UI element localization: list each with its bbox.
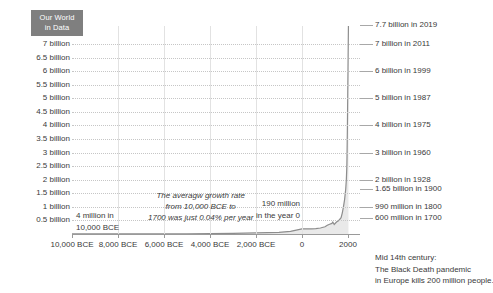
y-axis-tick-label: 6.5 billion bbox=[8, 53, 70, 62]
annotation-line: 4 million in bbox=[76, 210, 119, 222]
gridline-horizontal bbox=[72, 166, 360, 167]
x-axis-tick bbox=[72, 234, 73, 238]
gridline-horizontal bbox=[72, 112, 360, 113]
x-axis-tick bbox=[118, 234, 119, 238]
x-axis-tick-label: 2000 bbox=[339, 240, 357, 249]
y-axis-tick-label: 5.5 billion bbox=[8, 80, 70, 89]
milestone-leader-line bbox=[360, 189, 373, 190]
annotation-growth-rate: The averagw growth ratefrom 10,000 BCE t… bbox=[148, 190, 253, 223]
milestone-label: 2 billion in 1928 bbox=[375, 175, 431, 184]
milestone-leader-line bbox=[360, 153, 373, 154]
milestone-leader-line bbox=[360, 98, 373, 99]
milestone-label: 600 million in 1700 bbox=[375, 213, 442, 222]
y-axis-tick-label: 3.5 billion bbox=[8, 134, 70, 143]
chart-canvas: Our World in Data 7 billion6.5 billion6 … bbox=[0, 0, 493, 293]
x-axis-tick-label: 8,000 BCE bbox=[99, 240, 138, 249]
milestone-label: 7.7 billion in 2019 bbox=[375, 20, 437, 29]
y-axis-tick-label: 2.5 billion bbox=[8, 161, 70, 170]
gridline-horizontal bbox=[72, 85, 360, 86]
y-axis-tick-label: 0.5 billion bbox=[8, 215, 70, 224]
annotation-line: The Black Death pandemic bbox=[375, 264, 493, 276]
milestone-leader-line bbox=[360, 207, 373, 208]
milestone-label: 3 billion in 1960 bbox=[375, 148, 431, 157]
gridline-horizontal bbox=[72, 58, 360, 59]
annotation-line: The averagw growth rate bbox=[148, 190, 253, 201]
milestone-leader-line bbox=[360, 71, 373, 72]
milestone-label: 6 billion in 1999 bbox=[375, 66, 431, 75]
gridline-horizontal bbox=[72, 44, 360, 45]
gridline-horizontal bbox=[72, 180, 360, 181]
logo-line-1: Our World bbox=[31, 13, 83, 23]
annotation-line: in the year 0 bbox=[256, 210, 300, 222]
milestone-leader-line bbox=[360, 25, 373, 26]
annotation-black-death: Mid 14th century:The Black Death pandemi… bbox=[375, 252, 493, 287]
gridline-vertical bbox=[118, 26, 119, 234]
x-axis-line bbox=[72, 234, 360, 235]
milestone-label: 1.65 billion in 1900 bbox=[375, 184, 442, 193]
y-axis-tick-label: 4.5 billion bbox=[8, 107, 70, 116]
annotation-line: 10,000 BCE bbox=[76, 222, 119, 234]
x-axis-tick bbox=[256, 234, 257, 238]
annotation-line: Mid 14th century: bbox=[375, 252, 493, 264]
annotation-4-million: 4 million in10,000 BCE bbox=[76, 210, 119, 233]
y-axis-tick-label: 6 billion bbox=[8, 66, 70, 75]
x-axis-tick-label: 2,000 BCE bbox=[237, 240, 276, 249]
y-axis-labels: 7 billion6.5 billion6 billion5.5 billion… bbox=[8, 26, 70, 234]
annotation-line: in Europe kills 200 million people. bbox=[375, 275, 493, 287]
y-axis-tick-label: 1.5 billion bbox=[8, 188, 70, 197]
x-axis-tick-label: 0 bbox=[300, 240, 304, 249]
x-axis-tick-label: 10,000 BCE bbox=[50, 240, 93, 249]
milestone-leader-line bbox=[360, 125, 373, 126]
milestone-leader-line bbox=[360, 180, 373, 181]
logo-line-2: in Data bbox=[31, 23, 83, 33]
x-axis-tick bbox=[210, 234, 211, 238]
milestone-leader-line bbox=[360, 44, 373, 45]
gridline-horizontal bbox=[72, 153, 360, 154]
x-axis-tick bbox=[348, 234, 349, 238]
x-axis-tick-label: 4,000 BCE bbox=[191, 240, 230, 249]
gridline-horizontal bbox=[72, 125, 360, 126]
milestone-label: 7 billion in 2011 bbox=[375, 39, 430, 48]
gridline-vertical bbox=[302, 26, 303, 234]
y-axis-tick-label: 1 billion bbox=[8, 202, 70, 211]
y-axis-tick-label: 3 billion bbox=[8, 148, 70, 157]
gridline-horizontal bbox=[72, 71, 360, 72]
y-axis-tick-label: 7 billion bbox=[8, 39, 70, 48]
annotation-line: 190 million bbox=[256, 198, 300, 210]
x-axis-tick bbox=[302, 234, 303, 238]
y-axis-tick-label: 2 billion bbox=[8, 175, 70, 184]
annotation-year-zero: 190 millionin the year 0 bbox=[256, 198, 300, 221]
gridline-horizontal bbox=[72, 98, 360, 99]
gridline-horizontal bbox=[72, 139, 360, 140]
x-axis-tick-label: 6,000 BCE bbox=[145, 240, 184, 249]
milestone-leader-line bbox=[360, 218, 373, 219]
our-world-in-data-logo[interactable]: Our World in Data bbox=[31, 10, 83, 36]
x-axis-tick bbox=[164, 234, 165, 238]
milestone-label: 5 billion in 1987 bbox=[375, 93, 431, 102]
milestone-label: 990 million in 1800 bbox=[375, 202, 442, 211]
milestone-label: 4 billion in 1975 bbox=[375, 120, 431, 129]
annotation-line: from 10,000 BCE to bbox=[148, 201, 253, 212]
annotation-line: 1700 was just 0.04% per year bbox=[148, 212, 253, 223]
y-axis-tick-label: 4 billion bbox=[8, 120, 70, 129]
y-axis-tick-label: 5 billion bbox=[8, 93, 70, 102]
